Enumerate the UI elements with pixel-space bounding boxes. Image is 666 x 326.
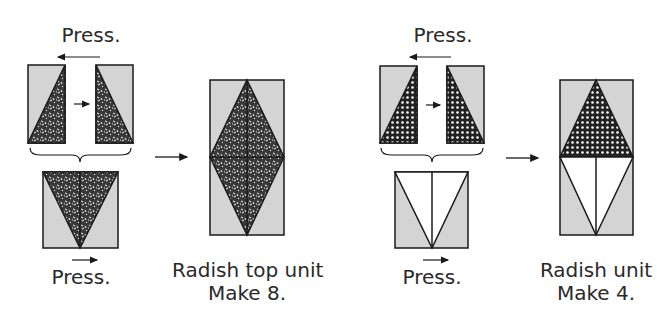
press-label-top-right: Press. bbox=[408, 24, 478, 47]
half-rectangle-right bbox=[447, 66, 484, 143]
result-caption-line1-right: Radish unit bbox=[531, 259, 661, 282]
half-rectangle-right bbox=[96, 65, 133, 143]
press-label-bottom-right: Press. bbox=[397, 266, 467, 289]
half-rectangle-left bbox=[380, 66, 417, 143]
right-panel bbox=[380, 57, 633, 260]
press-label-top-left: Press. bbox=[56, 24, 126, 47]
curly-brace bbox=[30, 148, 131, 162]
half-rectangle-left bbox=[28, 65, 65, 143]
radish-top-unit bbox=[210, 80, 284, 235]
result-caption-line2-right: Make 4. bbox=[531, 282, 661, 305]
left-panel bbox=[28, 57, 284, 260]
result-caption-line2-left: Make 8. bbox=[172, 282, 322, 305]
flying-geese-square bbox=[395, 172, 468, 248]
curly-brace bbox=[381, 148, 483, 162]
press-label-bottom-left: Press. bbox=[46, 266, 116, 289]
flying-geese-square bbox=[43, 172, 118, 248]
radish-unit bbox=[560, 80, 633, 235]
result-caption-line1-left: Radish top unit bbox=[172, 259, 322, 282]
